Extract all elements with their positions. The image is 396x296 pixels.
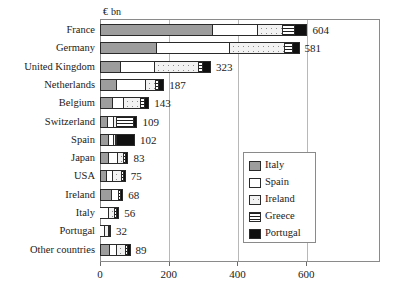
category-label: Japan [71,149,95,167]
bar-segment-spain [117,79,146,91]
category-label: Belgium [59,94,95,112]
legend-label-greece: Greece [265,211,295,222]
stacked-bar[interactable] [100,61,211,73]
bar-segment-italy [100,42,157,54]
bar-row: Ireland68 [0,186,396,204]
bar-row: Spain102 [0,131,396,149]
bar-segment-ireland [113,170,122,182]
bar-segment-portugal [124,170,126,182]
stacked-bar[interactable] [100,244,131,256]
stacked-bar[interactable] [100,24,307,36]
stacked-bar[interactable] [100,225,111,237]
bar-value-label: 68 [128,186,139,204]
bar-segment-portugal [293,42,300,54]
stacked-bar[interactable] [100,207,119,219]
stacked-bar[interactable] [100,42,300,54]
bar-segment-italy [100,189,112,201]
x-tick [100,262,101,266]
bar-segment-portugal [128,244,130,256]
bar-segment-italy [100,24,213,36]
bar-segment-portugal [145,97,149,109]
x-tick-label: 200 [160,268,177,280]
bar-segment-portugal [134,116,137,128]
bar-segment-greece [285,42,293,54]
category-label: Portugal [59,222,95,240]
bar-segment-portugal [117,134,135,146]
bar-row: Belgium143 [0,94,396,112]
legend-swatch-italy-icon [249,161,261,171]
bar-segment-ireland [155,61,199,73]
bar-value-label: 187 [169,76,186,94]
bar-segment-ireland [258,24,283,36]
x-tick [306,262,307,266]
category-label: Italy [76,204,95,222]
bar-segment-spain [121,61,154,73]
bar-segment-italy [100,152,109,164]
bar-value-label: 56 [124,204,135,222]
bar-value-label: 75 [131,167,142,185]
bar-segment-italy [100,244,110,256]
bar-row: Japan83 [0,149,396,167]
x-tick [237,262,238,266]
bar-segment-spain [110,244,117,256]
bar-segment-spain [100,207,109,219]
legend-swatch-portugal-icon [249,229,261,239]
bar-row: Italy56 [0,204,396,222]
legend-label-portugal: Portugal [265,228,301,239]
stacked-bar[interactable] [100,116,137,128]
bar-row: United Kingdom323 [0,58,396,76]
bar-segment-italy [100,79,117,91]
category-label: Switzerland [45,113,95,131]
stacked-bar[interactable] [100,170,126,182]
bar-segment-ireland [146,79,156,91]
stacked-bar[interactable] [100,152,128,164]
legend-swatch-greece-icon [249,212,261,222]
x-axis: 0200400600 [100,262,380,292]
legend: Italy Spain Ireland Greece Portugal [243,152,316,243]
bar-segment-portugal [295,24,307,36]
bar-row: Other countries89 [0,241,396,259]
bar-segment-spain [157,42,230,54]
legend-item-spain[interactable]: Spain [249,174,315,191]
bar-segment-portugal [121,189,123,201]
bar-segment-ireland [230,42,285,54]
bar-segment-italy [100,97,113,109]
legend-label-italy: Italy [265,160,284,171]
stacked-bar[interactable] [100,79,164,91]
bar-value-label: 109 [142,113,159,131]
stacked-bar[interactable] [100,97,149,109]
category-label: Ireland [65,186,95,204]
bar-segment-portugal [159,79,164,91]
legend-item-portugal[interactable]: Portugal [249,225,315,242]
bar-segment-portugal [126,152,128,164]
bar-segment-italy [100,116,108,128]
category-label: Germany [56,39,95,57]
stacked-bar[interactable] [100,189,123,201]
bar-segment-spain [112,189,119,201]
bar-segment-portugal [117,207,119,219]
bar-value-label: 143 [154,94,171,112]
units-label: € bn [103,6,121,17]
stacked-bar[interactable] [100,134,135,146]
bar-segment-spain [213,24,258,36]
stacked-bar-chart: € bn France604Germany581United Kingdom32… [0,0,396,296]
bar-value-label: 102 [140,131,157,149]
bar-value-label: 83 [134,149,145,167]
category-label: France [66,21,95,39]
x-tick [169,262,170,266]
bar-segment-spain [109,152,118,164]
bar-segment-italy [100,134,109,146]
legend-item-ireland[interactable]: Ireland [249,191,315,208]
bar-value-label: 89 [136,241,147,259]
legend-item-italy[interactable]: Italy [249,157,315,174]
bar-segment-greece [117,116,134,128]
bar-row: Switzerland109 [0,113,396,131]
category-label: Other countries [30,241,95,259]
category-label: USA [74,167,95,185]
bar-segment-spain [113,97,124,109]
bar-segment-portugal [110,225,111,237]
bar-row: Portugal32 [0,222,396,240]
bar-row: Netherlands187 [0,76,396,94]
x-tick-label: 600 [298,268,315,280]
legend-item-greece[interactable]: Greece [249,208,315,225]
